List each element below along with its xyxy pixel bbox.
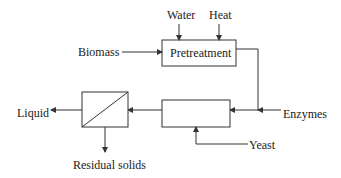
heat-label: Heat	[209, 8, 232, 22]
pretreatment-to-reactor-line	[236, 49, 258, 110]
yeast-label: Yeast	[249, 138, 276, 152]
liquid-label: Liquid	[17, 106, 49, 120]
reactor-node	[162, 100, 230, 127]
enzymes-label: Enzymes	[283, 107, 327, 121]
process-flow-diagram: Water Heat Biomass Enzymes Yeast Liquid …	[0, 0, 341, 178]
water-label: Water	[167, 8, 195, 22]
pretreatment-label: Pretreatment	[170, 46, 232, 60]
separator-node	[82, 92, 128, 127]
residual-solids-label: Residual solids	[73, 158, 146, 172]
pretreatment-node: Pretreatment	[162, 40, 236, 66]
biomass-label: Biomass	[78, 45, 120, 59]
yeast-arrow	[196, 127, 248, 144]
